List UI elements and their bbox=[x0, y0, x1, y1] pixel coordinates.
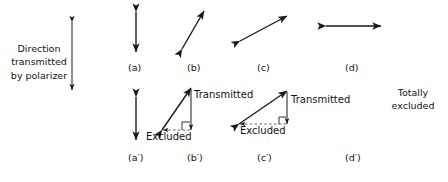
panel-label-d: (d) bbox=[345, 62, 358, 74]
excluded-label-c-prime: Excluded bbox=[240, 125, 286, 138]
panel-label-b-prime: (b′) bbox=[187, 152, 203, 164]
polarizer-direction-caption: Direction transmitted by polarizer bbox=[6, 42, 72, 82]
arrow-c bbox=[240, 16, 287, 41]
excluded-label-b-prime: Excluded bbox=[146, 131, 192, 144]
panel-label-a: (a) bbox=[128, 62, 141, 74]
panel-label-c: (c) bbox=[257, 62, 270, 74]
transmitted-label-b-prime: Transmitted bbox=[194, 89, 253, 102]
panel-label-a-prime: (a′) bbox=[128, 152, 143, 164]
totally-excluded-caption: Totally excluded bbox=[382, 86, 444, 113]
panel-label-b: (b) bbox=[187, 62, 200, 74]
arrow-b bbox=[182, 11, 204, 49]
transmitted-label-c-prime: Transmitted bbox=[291, 94, 350, 107]
panel-label-d-prime: (d′) bbox=[345, 152, 361, 164]
panel-label-c-prime: (c′) bbox=[257, 152, 272, 164]
vector-decomposition-b-prime bbox=[162, 88, 191, 130]
